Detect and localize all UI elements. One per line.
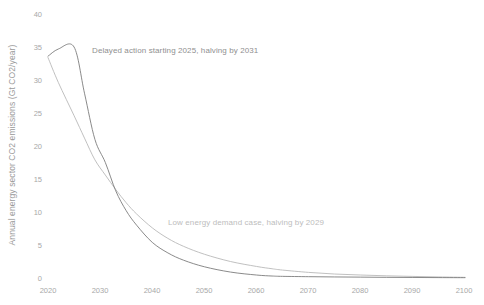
series-line-delayed-action: [48, 44, 465, 278]
series-line-low-energy-demand: [48, 58, 465, 278]
annotation-delayed-action: Delayed action starting 2025, halving by…: [92, 46, 258, 55]
chart-figure: Annual energy sector CO2 emissions (Gt C…: [0, 0, 484, 305]
annotation-low-energy-demand: Low energy demand case, halving by 2029: [168, 218, 324, 227]
